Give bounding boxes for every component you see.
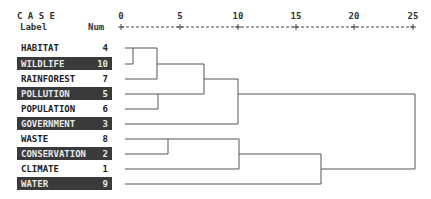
dendrogram-tree (0, 0, 431, 199)
